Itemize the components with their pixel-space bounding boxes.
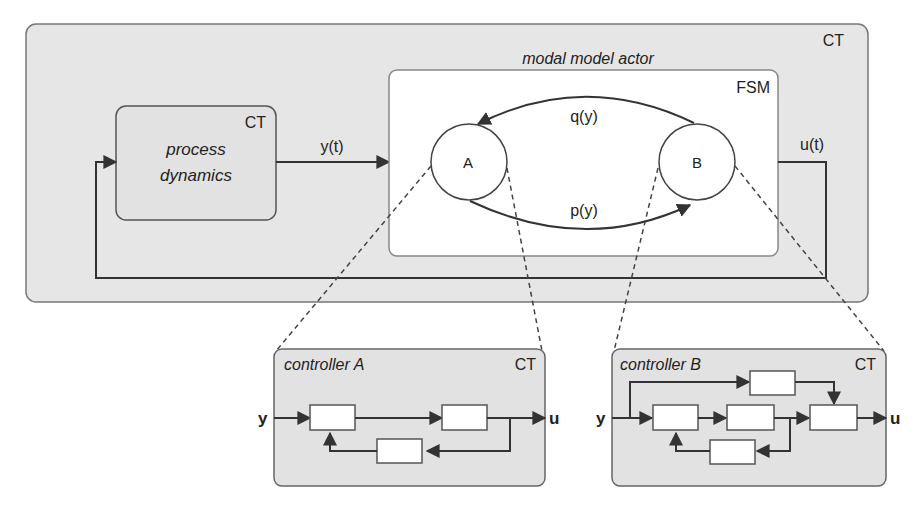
controller-b-title: controller B (620, 356, 701, 373)
controller-a-domain-label: CT (515, 356, 537, 373)
transition-b-to-a-label: q(y) (570, 108, 598, 125)
ctrl-b-block-sum[interactable] (810, 405, 857, 430)
signal-y-label: y(t) (320, 138, 343, 155)
controller-b-domain-label: CT (855, 356, 877, 373)
controller-b-output-label: u (890, 409, 900, 428)
process-label-line2: dynamics (160, 166, 232, 185)
ctrl-b-block-1[interactable] (653, 405, 698, 430)
fsm-label: FSM (736, 79, 770, 96)
ctrl-b-block-3[interactable] (710, 440, 755, 464)
ctrl-a-block-1[interactable] (310, 405, 355, 430)
outer-domain-label: CT (823, 32, 845, 49)
state-b-label: B (692, 154, 702, 171)
ctrl-b-block-top[interactable] (750, 371, 795, 395)
controller-b-input-label: y (596, 409, 606, 428)
state-a-label: A (463, 154, 473, 171)
signal-u-label: u(t) (800, 136, 824, 153)
controller-a[interactable]: controller A CT y u (258, 349, 559, 486)
process-domain-label: CT (245, 114, 267, 131)
ctrl-a-block-3[interactable] (377, 439, 422, 463)
ctrl-b-block-2[interactable] (727, 405, 774, 430)
transition-a-to-b-label: p(y) (570, 202, 598, 219)
diagram-canvas: CT CT process dynamics y(t) modal model … (0, 0, 923, 511)
modal-model-title: modal model actor (522, 50, 654, 67)
controller-a-output-label: u (549, 409, 559, 428)
controller-a-input-label: y (258, 409, 268, 428)
controller-a-title: controller A (284, 356, 364, 373)
process-label-line1: process (165, 140, 226, 159)
controller-b[interactable]: controller B CT y u (596, 349, 900, 486)
ctrl-a-block-2[interactable] (442, 405, 487, 430)
